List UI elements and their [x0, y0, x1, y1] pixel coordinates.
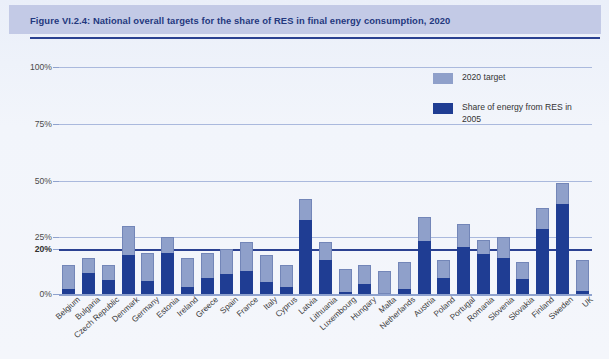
bar-res-2005[interactable]	[339, 292, 352, 294]
legend-swatch-icon	[433, 73, 453, 84]
bar-group[interactable]	[122, 67, 135, 294]
bar-group[interactable]	[418, 67, 431, 294]
bar-2020-target[interactable]	[576, 260, 589, 294]
bar-group[interactable]	[319, 67, 332, 294]
bar-res-2005[interactable]	[457, 247, 470, 294]
bar-group[interactable]	[260, 67, 273, 294]
bar-group[interactable]	[398, 67, 411, 294]
legend-label: 2020 target	[462, 72, 582, 84]
bar-res-2005[interactable]	[576, 291, 589, 294]
bar-res-2005[interactable]	[102, 280, 115, 294]
bar-group[interactable]	[141, 67, 154, 294]
x-tick-label: France	[235, 295, 260, 319]
bar-group[interactable]	[240, 67, 253, 294]
y-tick-label: 25%	[8, 232, 52, 242]
bar-group[interactable]	[62, 67, 75, 294]
bar-res-2005[interactable]	[437, 278, 450, 294]
y-tick-label: 100%	[8, 62, 52, 72]
bar-res-2005[interactable]	[161, 253, 174, 294]
bar-res-2005[interactable]	[536, 229, 549, 294]
legend-item-res2005: Share of energy from RES in 2005	[433, 102, 593, 125]
title-underline	[30, 37, 600, 39]
x-tick-label: UK	[581, 295, 595, 309]
chart-legend: 2020 target Share of energy from RES in …	[433, 72, 593, 133]
y-tick-label: 75%	[8, 119, 52, 129]
bar-2020-target[interactable]	[339, 269, 352, 294]
bar-res-2005[interactable]	[201, 278, 214, 294]
bar-res-2005[interactable]	[319, 260, 332, 294]
legend-label: Share of energy from RES in 2005	[462, 102, 582, 125]
bar-group[interactable]	[220, 67, 233, 294]
bar-res-2005[interactable]	[358, 284, 371, 294]
legend-swatch-icon	[433, 103, 453, 114]
bar-res-2005[interactable]	[62, 289, 75, 294]
bar-group[interactable]	[280, 67, 293, 294]
y-tick-mark	[53, 124, 59, 125]
x-tick-label: Cyprus	[274, 295, 299, 319]
y-tick-mark	[53, 181, 59, 182]
bar-group[interactable]	[339, 67, 352, 294]
bar-group[interactable]	[82, 67, 95, 294]
y-tick-mark	[53, 237, 59, 238]
bar-res-2005[interactable]	[398, 289, 411, 294]
bar-res-2005[interactable]	[181, 287, 194, 294]
bar-res-2005[interactable]	[240, 271, 253, 294]
bar-group[interactable]	[299, 67, 312, 294]
bar-group[interactable]	[201, 67, 214, 294]
y-tick-label: 0%	[8, 289, 52, 299]
y-tick-mark	[53, 67, 59, 68]
x-tick-label: Austria	[412, 295, 437, 319]
bar-res-2005[interactable]	[220, 274, 233, 294]
bar-res-2005[interactable]	[477, 254, 490, 294]
bar-res-2005[interactable]	[141, 281, 154, 294]
legend-item-target: 2020 target	[433, 72, 593, 94]
bar-2020-target[interactable]	[378, 271, 391, 294]
bar-group[interactable]	[378, 67, 391, 294]
bar-res-2005[interactable]	[556, 204, 569, 294]
figure-container: Figure VI.2.4: National overall targets …	[0, 0, 609, 359]
y-tick-mark	[53, 249, 59, 250]
bar-group[interactable]	[181, 67, 194, 294]
bar-group[interactable]	[102, 67, 115, 294]
bar-res-2005[interactable]	[497, 258, 510, 294]
bar-res-2005[interactable]	[122, 255, 135, 294]
y-tick-label: 20%	[8, 244, 52, 254]
bar-res-2005[interactable]	[299, 220, 312, 294]
bar-res-2005[interactable]	[82, 273, 95, 294]
bar-group[interactable]	[358, 67, 371, 294]
figure-title-band: Figure VI.2.4: National overall targets …	[9, 5, 601, 34]
bar-res-2005[interactable]	[516, 279, 529, 294]
bar-group[interactable]	[161, 67, 174, 294]
page-title: Figure VI.2.4: National overall targets …	[30, 15, 450, 26]
bar-res-2005[interactable]	[280, 287, 293, 294]
bar-res-2005[interactable]	[418, 241, 431, 294]
x-axis-tick-labels: BelgiumBulgariaCzech RepublicDenmarkGerm…	[59, 295, 604, 357]
bar-res-2005[interactable]	[260, 282, 273, 294]
y-tick-label: 50%	[8, 176, 52, 186]
